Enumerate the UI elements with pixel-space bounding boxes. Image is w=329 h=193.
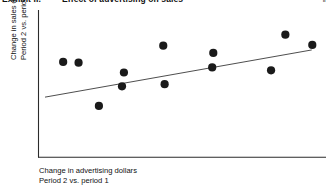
- x-axis-label: Change in advertising dollars Period 2 v…: [39, 166, 137, 186]
- data-point: [159, 42, 167, 50]
- data-point: [267, 66, 275, 74]
- exhibit-figure: Exhibit II. Effect of advertising on sal…: [0, 0, 329, 193]
- data-point: [118, 82, 126, 90]
- y-axis-label-line-2: Period 2 vs. period 1: [19, 0, 29, 60]
- plot-canvas: [0, 0, 329, 193]
- data-point: [161, 80, 169, 88]
- data-point: [208, 63, 216, 71]
- x-axis-label-line-2: Period 2 vs. period 1: [39, 176, 137, 186]
- data-point: [95, 102, 103, 110]
- scatter-chart: Change in sales dollars Period 2 vs. per…: [0, 0, 329, 193]
- y-axis-label-line-1: Change in sales dollars: [9, 0, 19, 60]
- data-point: [281, 31, 289, 39]
- data-point: [74, 59, 82, 67]
- data-point: [209, 49, 217, 57]
- y-axis-label: Change in sales dollars Period 2 vs. per…: [9, 0, 35, 60]
- data-points: [59, 31, 316, 110]
- x-axis-label-line-1: Change in advertising dollars: [39, 166, 137, 176]
- data-point: [308, 41, 316, 49]
- data-point: [120, 68, 128, 76]
- data-point: [59, 58, 67, 66]
